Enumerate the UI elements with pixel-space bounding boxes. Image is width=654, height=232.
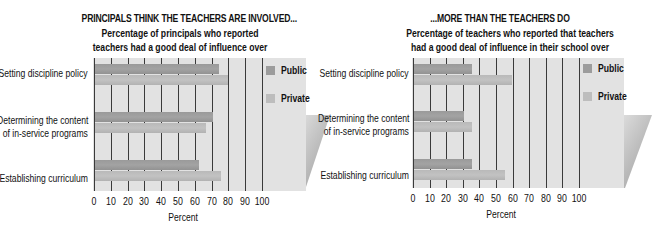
legend-swatch-public <box>583 64 592 73</box>
category-label: Establishing curriculum <box>320 169 409 182</box>
bar-public <box>414 64 472 74</box>
gridline <box>562 58 563 188</box>
chart-title: ...MORE THAN THE TEACHERS DO <box>418 12 582 24</box>
category-label: Determining the content <box>318 112 409 125</box>
bar-private <box>414 75 512 85</box>
bar-private <box>414 170 505 180</box>
gridline <box>529 58 530 188</box>
gridline <box>546 58 547 188</box>
legend-public: Public <box>583 62 630 74</box>
chart-subtitle-line1: Percentage of teachers who reported that… <box>403 26 616 40</box>
chart-subtitle-line2: had a good deal of influence in their sc… <box>403 40 616 54</box>
bar-private <box>414 122 472 132</box>
x-axis-label: Percent <box>486 208 516 220</box>
legend-private: Private <box>583 90 633 102</box>
legend-swatch-private <box>583 92 592 101</box>
category-label: Setting discipline policy <box>320 67 409 80</box>
category-label: of in-service programs <box>324 125 409 138</box>
bar-public <box>414 159 472 169</box>
x-tick-label: 100 <box>569 192 588 204</box>
bar-public <box>414 111 464 121</box>
gridline <box>579 58 580 188</box>
chart-teachers: ...MORE THAN THE TEACHERS DO Percentage … <box>0 0 654 232</box>
gridline <box>513 58 514 188</box>
